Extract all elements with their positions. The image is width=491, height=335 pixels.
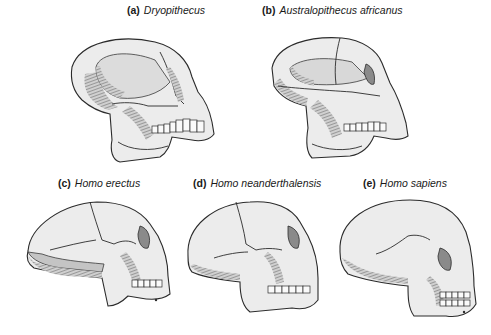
panel-letter: (b) [262,4,275,16]
skull-dryopithecus-illustration [60,22,220,172]
species-name: Homo sapiens [380,177,447,189]
mental-foramen [463,311,465,313]
label-homo-sapiens: (e)Homo sapiens [363,177,447,189]
label-homo-erectus: (c)Homo erectus [58,177,140,189]
panel-letter: (e) [363,177,376,189]
skull-australopithecus-illustration [262,28,422,163]
label-australopithecus-africanus: (b)Australopithecus africanus [262,4,403,16]
skull-homo-sapiens-illustration [336,196,486,326]
label-dryopithecus: (a)Dryopithecus [127,4,205,16]
species-name: Australopithecus africanus [279,4,402,16]
skull-homo-neanderthalensis-illustration [184,196,324,324]
species-name: Homo neanderthalensis [210,177,321,189]
panel-letter: (d) [193,177,206,189]
panel-letter: (a) [127,4,140,16]
species-name: Homo erectus [75,177,140,189]
skull-homo-erectus-illustration [22,196,172,316]
mental-foramen [155,299,157,301]
panel-letter: (c) [58,177,71,189]
species-name: Dryopithecus [144,4,205,16]
label-homo-neanderthalensis: (d)Homo neanderthalensis [193,177,321,189]
